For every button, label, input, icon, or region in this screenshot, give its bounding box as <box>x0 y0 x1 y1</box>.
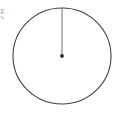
circle-diagram <box>0 0 116 122</box>
center-point <box>60 54 63 57</box>
figure-canvas: 5 <box>0 0 116 122</box>
